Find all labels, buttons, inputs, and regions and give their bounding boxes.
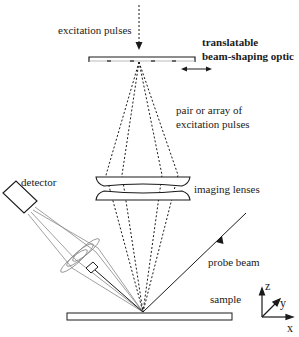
diagram-canvas: excitation pulses translatable beam-shap… (0, 0, 299, 337)
imaging-lenses (96, 177, 190, 200)
label-imaging-lenses: imaging lenses (194, 183, 260, 195)
label-detector: detector (21, 176, 56, 188)
label-beam-shaping-optic: beam-shaping optic (202, 50, 294, 62)
label-excitation-pulses-2: excitation pulses (176, 118, 250, 130)
label-axis-x: x (287, 322, 293, 334)
beam-shaping-optic (89, 57, 195, 62)
label-translatable: translatable (202, 36, 258, 48)
sample-slab (67, 313, 232, 320)
label-sample: sample (210, 293, 241, 305)
label-excitation-pulses: excitation pulses (58, 24, 132, 36)
translation-double-arrow-icon (181, 67, 212, 72)
label-axis-z: z (265, 280, 270, 292)
beam-stop (86, 262, 143, 312)
excitation-input-arrow (136, 5, 143, 50)
label-probe-beam: probe beam (208, 256, 260, 268)
label-pair-or-array: pair or array of (176, 104, 242, 116)
label-axis-y: y (280, 297, 286, 309)
